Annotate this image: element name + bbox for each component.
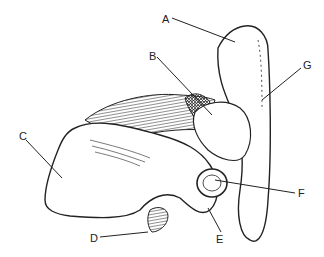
label-c: C [19,131,27,142]
middle-plate [193,102,250,160]
label-d: D [90,233,98,244]
label-e: E [216,234,223,245]
lower-tip [148,208,168,232]
label-b: B [149,51,156,62]
label-g: G [303,60,312,71]
label-a: A [162,14,169,25]
main-body [45,123,218,217]
bone-illustration [0,0,324,257]
label-f: F [298,188,305,199]
